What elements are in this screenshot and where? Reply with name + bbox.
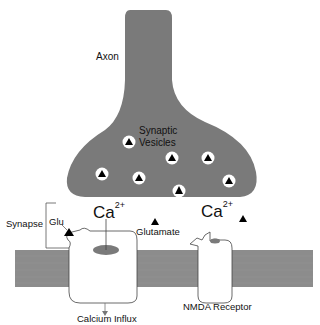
channel-pore-closed xyxy=(210,239,220,244)
calcium-ion-right: Ca2+ xyxy=(201,203,233,220)
vesicle-releasing xyxy=(173,185,186,198)
postsynaptic-membrane xyxy=(15,250,313,287)
vesicle xyxy=(133,172,146,185)
vesicle xyxy=(123,136,136,149)
synapse-diagram xyxy=(0,0,320,325)
calcium-ion-left: Ca2+ xyxy=(93,204,125,221)
calcium-symbol: Ca xyxy=(93,203,115,222)
axon-label: Axon xyxy=(96,52,119,62)
vesicle xyxy=(202,152,215,165)
calcium-charge: 2+ xyxy=(223,199,233,209)
glu-label: Glu xyxy=(49,217,64,227)
calcium-charge: 2+ xyxy=(115,200,125,210)
vesicle xyxy=(223,175,236,188)
synapse-label: Synapse xyxy=(6,219,43,229)
vesicles-label-line1: Synaptic xyxy=(139,126,177,136)
receptor-open xyxy=(67,228,137,303)
vesicle xyxy=(166,152,179,165)
glutamate-free-icon xyxy=(239,215,247,222)
vesicles-label-line2: Vesicles xyxy=(139,138,176,148)
axon-terminal xyxy=(67,10,257,197)
calcium-influx-label: Calcium Influx xyxy=(77,314,137,324)
vesicle xyxy=(96,168,109,181)
nmda-receptor-label: NMDA Receptor xyxy=(183,302,252,312)
calcium-symbol: Ca xyxy=(201,202,223,221)
glutamate-free-icon xyxy=(151,218,159,225)
glutamate-label: Glutamate xyxy=(136,227,180,237)
